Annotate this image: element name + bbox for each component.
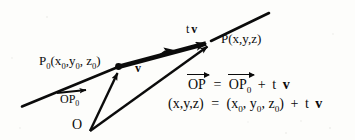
eq2-t: t [305,96,309,111]
point-marker-p0 [115,63,122,70]
eq2-v: v [315,96,322,111]
eq2-equals: = [211,96,219,111]
label-direction-vector-v: v [135,62,141,74]
label-op0-text: OP [60,92,75,106]
label-op0-sub: 0 [75,99,79,108]
diagram-canvas: P0(x0,y0, z0) v tv P(x,y,z) OP0 O OP = O… [0,0,355,140]
eq2-mid2: , z [261,96,274,111]
label-scaled-vector-tv: tv [186,23,197,35]
direction-vector-segment [118,44,206,68]
eq2-plus: + [290,96,298,111]
eq1-rhs-sub: 0 [247,85,252,95]
eq2-mid1: , y [243,96,257,111]
eq1-rhs-vector: OP0 [229,78,252,95]
eq1-lhs-text: OP [188,77,206,92]
label-point-p: P(x,y,z) [221,32,261,45]
eq1-lhs-vector: OP [188,78,206,92]
eq2-lhs: (x,y,z) [168,96,204,111]
label-tv-t: t [186,22,189,36]
eq1-plus: + [258,77,266,92]
eq1-rhs-text: OP [229,77,247,92]
eq1-v: v [283,77,290,92]
label-tv-v: v [191,22,197,36]
equation-line-2: (x,y,z) = (x0, y0, z0) + t v [168,97,322,114]
eq1-equals: = [213,77,221,92]
label-vector-op0: OP0 [60,93,79,108]
scan-noise [11,16,334,134]
eq1-t: t [272,77,276,92]
eq2-close: ) [279,96,284,111]
equation-line-1: OP = OP0 + t v [188,78,290,95]
eq1-rhs-overarrow-icon [228,74,255,75]
label-origin: O [72,118,82,132]
label-point-p0: P0(x0,y0, z0) [39,54,101,70]
eq1-lhs-overarrow-icon [187,74,209,75]
eq2-rhs-open: (x [227,96,239,111]
